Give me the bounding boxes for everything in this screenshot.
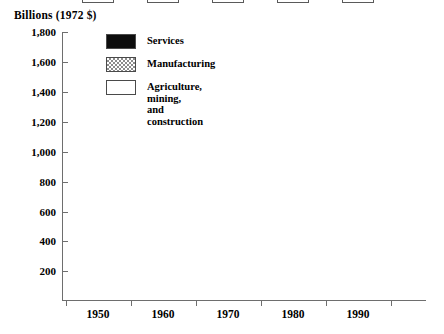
x-axis-label-1990: 1990 — [328, 308, 388, 320]
y-tick-label-200: 200 — [40, 265, 57, 277]
x-axis-label-1960: 1960 — [133, 308, 193, 320]
x-tick-3 — [261, 300, 262, 306]
x-axis-label-1970: 1970 — [198, 308, 258, 320]
y-tick-label-wrap-1600: 1,600 — [0, 56, 56, 68]
white-swatch-icon — [106, 80, 136, 95]
y-tick-200 — [62, 271, 68, 272]
black-filled-swatch-icon — [106, 34, 136, 49]
y-tick-800 — [62, 182, 68, 183]
x-tick-2 — [196, 300, 197, 306]
y-tick-label-wrap-800: 800 — [0, 176, 56, 188]
hatched-swatch-icon — [106, 57, 136, 72]
x-tick-1 — [131, 300, 132, 306]
y-tick-label-800: 800 — [40, 176, 57, 188]
x-tick-4 — [326, 300, 327, 306]
y-tick-600 — [62, 212, 68, 213]
stacked-bar-chart: Billions (1972 $) 1,800 1,600 1,400 1,20… — [0, 0, 444, 334]
bar-segment-agriculture-1990 — [342, 0, 374, 3]
legend-item-agriculture: Agriculture, mining, and construction — [106, 80, 203, 127]
y-tick-label-400: 400 — [40, 235, 57, 247]
y-tick-label-wrap-400: 400 — [0, 235, 56, 247]
legend-label-services: Services — [147, 34, 184, 47]
x-tick-0 — [66, 300, 67, 306]
y-tick-label-wrap-1200: 1,200 — [0, 116, 56, 128]
x-axis-label-1950: 1950 — [68, 308, 128, 320]
y-tick-1000 — [62, 152, 68, 153]
y-tick-label-1800: 1,800 — [31, 26, 56, 38]
y-axis-line — [62, 32, 63, 301]
legend-item-services: Services — [106, 34, 184, 49]
y-tick-label-wrap-1000: 1,000 — [0, 146, 56, 158]
y-tick-label-600: 600 — [40, 206, 57, 218]
y-tick-400 — [62, 241, 68, 242]
bar-segment-agriculture-1950 — [82, 0, 114, 3]
y-tick-label-1000: 1,000 — [31, 146, 56, 158]
x-axis-label-1980: 1980 — [263, 308, 323, 320]
y-tick-1200 — [62, 122, 68, 123]
y-tick-label-wrap-600: 600 — [0, 206, 56, 218]
y-tick-label-wrap-1800: 1,800 — [0, 26, 56, 38]
legend-label-agriculture: Agriculture, mining, and construction — [147, 80, 203, 127]
legend-label-manufacturing: Manufacturing — [147, 57, 215, 70]
y-tick-1800 — [62, 32, 68, 33]
y-tick-label-1600: 1,600 — [31, 56, 56, 68]
y-tick-label-1200: 1,200 — [31, 116, 56, 128]
chart-axis-title: Billions (1972 $) — [14, 9, 97, 21]
x-tick-5 — [391, 300, 392, 306]
y-tick-label-wrap-200: 200 — [0, 265, 56, 277]
legend-item-manufacturing: Manufacturing — [106, 57, 215, 72]
bar-segment-agriculture-1970 — [212, 0, 244, 3]
y-tick-1600 — [62, 62, 68, 63]
y-tick-label-wrap-1400: 1,400 — [0, 86, 56, 98]
y-tick-label-1400: 1,400 — [31, 86, 56, 98]
bar-segment-agriculture-1960 — [147, 0, 179, 3]
x-axis-line — [62, 300, 426, 301]
bar-segment-agriculture-1980 — [277, 0, 309, 3]
y-tick-1400 — [62, 92, 68, 93]
